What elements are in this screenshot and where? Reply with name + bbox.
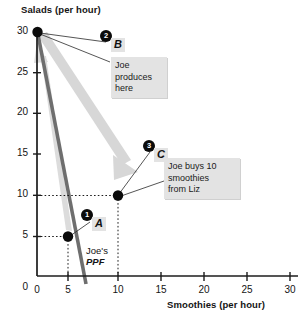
- ppf-label-line2: PPF: [86, 256, 108, 267]
- point-c: [113, 190, 123, 200]
- x-tick-25: 25: [237, 284, 257, 295]
- callout-joe-buys-smoothies: Joe buys 10 smoothies from Liz: [164, 158, 240, 199]
- ppf-label: Joe'sPPF: [86, 245, 108, 267]
- x-tick-10: 10: [108, 284, 128, 295]
- x-tick-30: 30: [280, 284, 300, 295]
- y-tick-0: 0: [8, 281, 28, 292]
- ppf-label-line1: Joe's: [86, 245, 108, 256]
- y-tick-5: 5: [8, 229, 28, 240]
- callout-joe-produces-here: Joe produces here: [111, 57, 167, 98]
- y-tick-10: 10: [8, 188, 28, 199]
- point-a: [63, 231, 73, 241]
- x-axis-title: Smoothies (per hour): [167, 299, 265, 310]
- x-tick-15: 15: [151, 284, 171, 295]
- x-tick-20: 20: [194, 284, 214, 295]
- point-label-a: A: [92, 217, 106, 231]
- chart-canvas: Salads (per hour) Smoothies (per hour) 3…: [0, 0, 307, 324]
- point-b: [32, 27, 42, 37]
- x-tick-0: 0: [27, 284, 47, 295]
- y-tick-25: 25: [8, 66, 28, 77]
- y-tick-30: 30: [8, 25, 28, 36]
- x-tick-5: 5: [58, 284, 78, 295]
- chart-graphics: [0, 0, 307, 324]
- y-axis-title: Salads (per hour): [21, 4, 101, 15]
- y-tick-15: 15: [8, 147, 28, 158]
- y-tick-20: 20: [8, 106, 28, 117]
- leader-to-buys: [121, 181, 164, 196]
- point-label-b: B: [111, 38, 125, 52]
